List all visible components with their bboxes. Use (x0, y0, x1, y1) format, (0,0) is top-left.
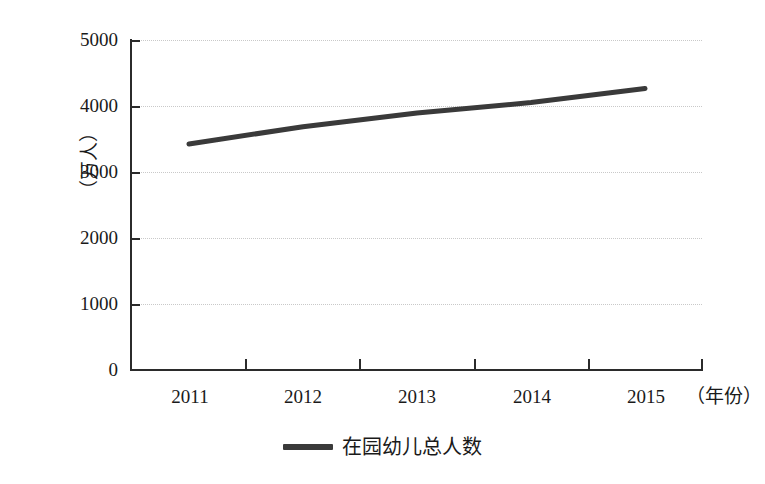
y-axis-label-5000: 5000 (40, 30, 118, 49)
y-axis-line (130, 39, 132, 371)
x-axis-tick-1 (245, 359, 247, 370)
legend-line-swatch (283, 444, 333, 450)
legend-item-label: 在园幼儿总人数 (342, 436, 482, 458)
y-axis-tick-2000 (131, 238, 140, 240)
x-axis-label-2012: 2012 (263, 386, 343, 408)
x-axis-tick-5 (701, 359, 703, 370)
x-axis-tick-3 (474, 359, 476, 370)
x-axis-label-2013: 2013 (377, 386, 457, 408)
gridline-1000 (131, 304, 702, 305)
x-axis-label-2015: 2015 (606, 386, 686, 408)
y-axis-title: （万人） (79, 91, 101, 231)
x-axis-line (130, 369, 703, 371)
x-axis-label-2014: 2014 (492, 386, 572, 408)
y-axis-label-1000: 1000 (40, 294, 118, 313)
y-axis-tick-4000 (131, 106, 140, 108)
x-axis-tick-0 (130, 359, 132, 370)
series-line-total-children (189, 89, 645, 145)
y-axis-tick-3000 (131, 172, 140, 174)
chart-container: 5000 4000 3000 2000 1000 0 （万人） 2011 201… (0, 0, 765, 484)
gridline-5000 (131, 40, 702, 41)
x-axis-label-2011: 2011 (150, 386, 230, 408)
gridline-4000 (131, 106, 702, 107)
x-axis-tick-2 (359, 359, 361, 370)
gridline-3000 (131, 172, 702, 173)
y-axis-tick-5000 (131, 40, 140, 42)
x-axis-unit-label: （年份） (686, 386, 762, 408)
y-axis-tick-1000 (131, 304, 140, 306)
chart-legend: 在园幼儿总人数 (0, 436, 765, 458)
y-axis-label-0: 0 (40, 360, 118, 379)
gridline-2000 (131, 238, 702, 239)
x-axis-tick-4 (588, 359, 590, 370)
